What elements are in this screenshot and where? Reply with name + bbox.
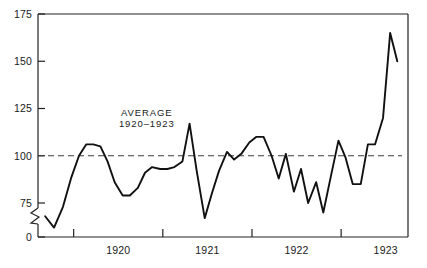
average-annotation: AVERAGE 1920–1923: [119, 107, 175, 129]
chart-container: 075100125150175 1920192119221923 AVERAGE…: [0, 0, 427, 268]
y-tick-label: 125: [14, 102, 32, 114]
y-tick-label: 75: [20, 197, 32, 209]
x-tick-labels: 1920192119221923: [106, 244, 398, 256]
x-tick-label: 1922: [284, 244, 308, 256]
y-tick-labels: 075100125150175: [14, 8, 32, 243]
data-series-line: [45, 33, 397, 228]
y-tick-label: 100: [14, 150, 32, 162]
average-annotation-line1: AVERAGE: [121, 107, 173, 118]
x-tick-label: 1921: [195, 244, 219, 256]
average-annotation-line2: 1920–1923: [119, 118, 175, 129]
line-chart: 075100125150175 1920192119221923 AVERAGE…: [0, 0, 427, 268]
x-tick-label: 1920: [106, 244, 130, 256]
x-tick-label: 1923: [374, 244, 398, 256]
x-axis: 1920192119221923: [74, 229, 398, 256]
y-tick-label: 150: [14, 55, 32, 67]
y-tick-marks: [38, 14, 45, 237]
y-axis-break-zigzag: [31, 208, 39, 224]
x-tick-marks: [74, 229, 341, 237]
y-tick-label: 175: [14, 8, 32, 20]
y-axis: 075100125150175: [14, 8, 45, 243]
y-tick-label: 0: [26, 231, 32, 243]
plot-frame: [38, 14, 408, 237]
